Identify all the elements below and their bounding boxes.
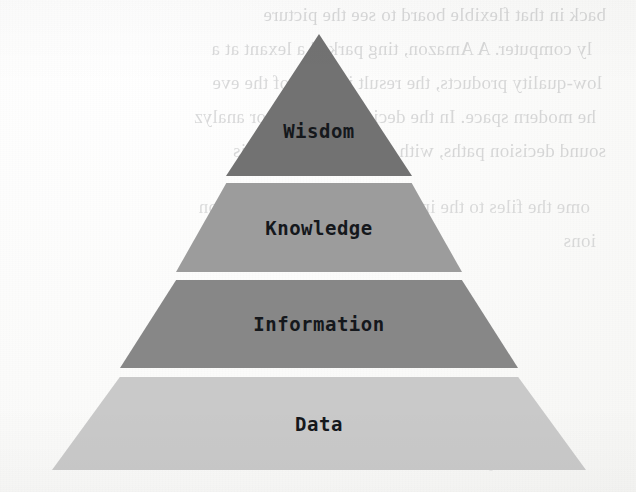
pyramid-tier-data: Data <box>52 377 586 470</box>
pyramid-tier-wisdom: Wisdom <box>226 34 412 176</box>
dikw-pyramid: Wisdom Knowledge Information Data <box>0 0 636 492</box>
pyramid-tier-label: Knowledge <box>265 217 372 239</box>
pyramid-tier-knowledge: Knowledge <box>176 183 462 272</box>
pyramid-tier-label: Wisdom <box>283 120 355 142</box>
pyramid-tier-label: Data <box>295 413 343 435</box>
scanned-page-figure: back in that flexible board to see the p… <box>0 0 636 492</box>
pyramid-tier-information: Information <box>120 280 518 368</box>
pyramid-tier-label: Information <box>253 313 384 335</box>
